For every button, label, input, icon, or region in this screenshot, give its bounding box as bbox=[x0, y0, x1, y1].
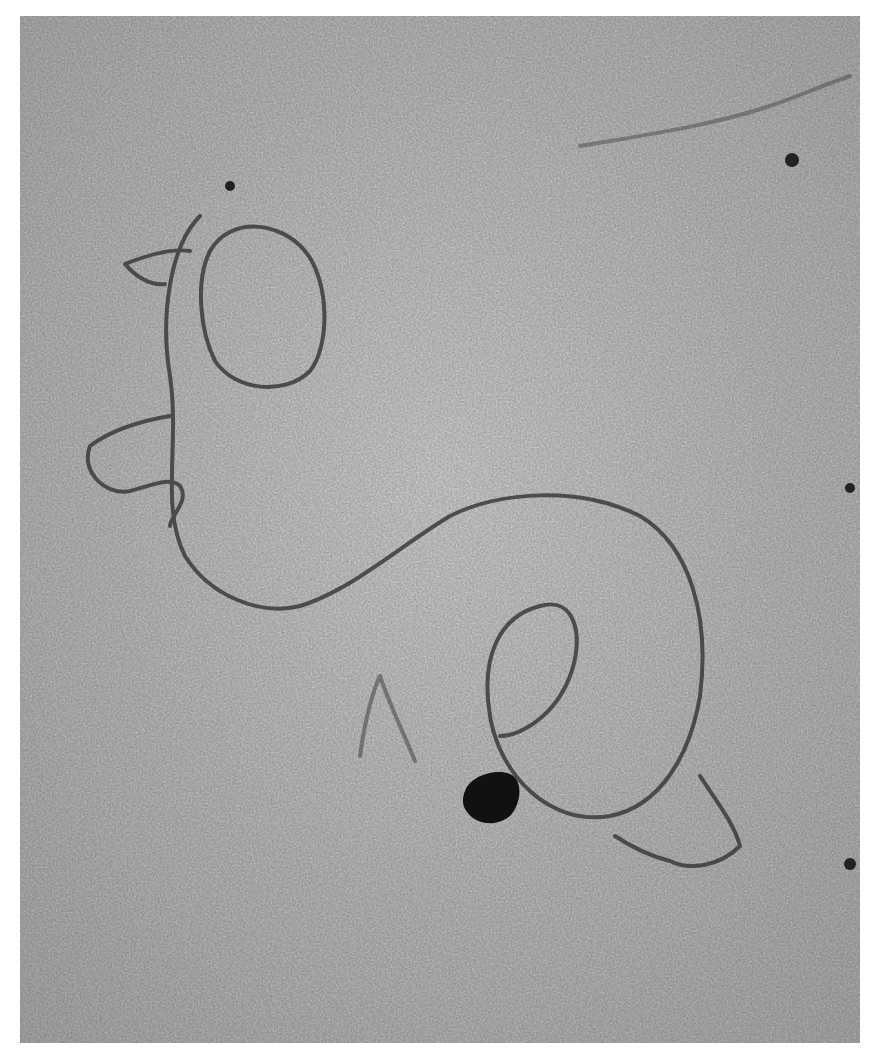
vignette bbox=[20, 16, 860, 1043]
dot bbox=[225, 181, 235, 191]
micrograph bbox=[20, 16, 860, 1043]
dot bbox=[844, 858, 856, 870]
dot bbox=[845, 483, 855, 493]
dot bbox=[785, 153, 799, 167]
micrograph-canvas bbox=[20, 16, 860, 1043]
